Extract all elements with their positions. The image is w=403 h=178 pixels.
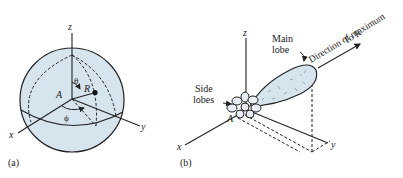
origin-label-a: A	[55, 89, 63, 100]
z-axis-label-b: z	[242, 27, 247, 38]
projection-x	[238, 118, 300, 152]
x-axis-b	[185, 112, 243, 145]
antenna-radiation-diagram: z x y A R θ ϕ (a)	[0, 0, 403, 178]
projection-base	[245, 115, 312, 152]
y-axis-label-b: y	[330, 139, 336, 150]
x-axis-label-b: x	[176, 141, 182, 152]
main-lobe-label-1: Main	[272, 33, 293, 44]
caption-a: (a)	[8, 157, 19, 169]
side-lobes-pointer	[223, 103, 231, 104]
y-axis-label: y	[140, 121, 146, 132]
main-lobe-pointer	[300, 52, 304, 61]
phi-label: ϕ	[64, 113, 69, 123]
panel-a-sphere	[18, 33, 140, 152]
y-axis-b	[252, 112, 328, 143]
main-lobe	[250, 65, 317, 106]
point-r	[92, 90, 97, 95]
projection-to-y	[312, 141, 330, 152]
z-axis-label: z	[67, 21, 72, 32]
main-lobe-label-2: lobe	[272, 44, 290, 55]
theta-label: θ	[74, 76, 78, 86]
x-axis-label: x	[8, 129, 14, 140]
side-lobes-label-1: Side	[195, 83, 213, 94]
r-label: R	[83, 83, 90, 94]
caption-b: (b)	[180, 157, 192, 169]
side-lobes-label-2: lobes	[193, 94, 214, 105]
origin-label-b: A	[226, 113, 234, 124]
